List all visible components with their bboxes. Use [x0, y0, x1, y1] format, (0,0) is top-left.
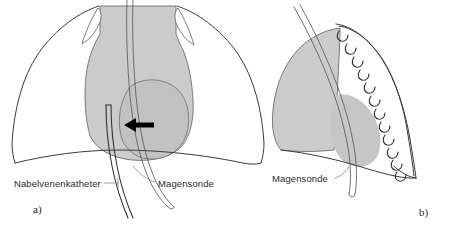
label-gastric-tube-a: Magensonde [158, 178, 214, 189]
rib-hook [358, 70, 369, 80]
leader-line-gastric-tube-b [335, 167, 349, 178]
rib-hook [387, 148, 398, 158]
leader-line-gastric-tube-a [133, 166, 155, 182]
rib-hook [383, 135, 394, 145]
panel-letter-a: a) [33, 203, 42, 215]
rib-hook [345, 44, 356, 54]
figure-illustration: Nabelvenenkatheter Magensonde Magensonde… [0, 0, 451, 234]
label-umbilical-catheter: Nabelvenenkatheter [14, 178, 101, 189]
panel-b-graphic [272, 5, 416, 197]
gastric-tube-tip-b [349, 194, 355, 197]
gastric-tube-tip [168, 207, 174, 209]
rib-hook [364, 83, 375, 93]
rib-hook [379, 122, 390, 132]
lung-silhouette-lateral [272, 28, 340, 152]
panel-letter-b: b) [419, 206, 428, 218]
rib-hook [369, 96, 380, 106]
label-gastric-tube-b: Magensonde [272, 173, 328, 184]
rib-hook [352, 57, 363, 67]
figure-canvas [0, 0, 451, 234]
rib-hook [374, 109, 385, 119]
